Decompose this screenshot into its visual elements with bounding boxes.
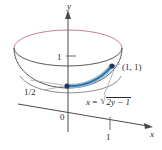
x-axis-line: [18, 104, 148, 126]
equation-radicand: 2y − 1: [106, 97, 132, 107]
point-marker-one-one: [109, 63, 114, 68]
curve-equation-label: x = √2y − 1: [86, 97, 131, 107]
radical-sign-icon: √: [101, 95, 106, 106]
diagram-canvas: [0, 0, 162, 150]
y-axis-arrowhead: [65, 10, 71, 19]
origin-label: 0: [60, 113, 65, 122]
math-diagram-paraboloid: y x 0 1 1 1/2 (1, 1) x = √2y − 1: [0, 0, 162, 150]
leader-line-half-secondary: [30, 80, 63, 85]
y-intercept-half-label: 1/2: [24, 88, 36, 97]
point-marker-origin-half: [64, 83, 69, 88]
y-axis-tick-label-one: 1: [57, 53, 62, 62]
x-axis-label: x: [150, 130, 154, 139]
curve-sqrt-2y-minus-1: [67, 67, 111, 86]
y-axis-label: y: [67, 2, 71, 11]
equation-radical: √2y − 1: [100, 97, 132, 107]
x-axis-tick-label-one: 1: [106, 133, 111, 142]
point-coordinate-label: (1, 1): [122, 63, 142, 72]
